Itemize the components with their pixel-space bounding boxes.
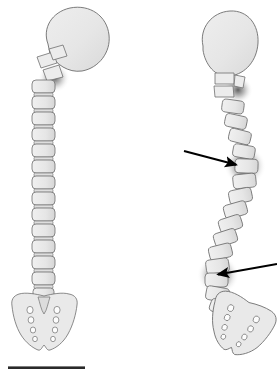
vertebra-body [205, 257, 230, 274]
sacral-foramen [54, 306, 60, 313]
sacral-foramen [30, 327, 35, 333]
vertebra-body [205, 273, 228, 287]
sacral-foramen [33, 336, 38, 341]
vertebra-body [32, 96, 55, 109]
spine-comparison-illustration [0, 0, 277, 377]
vertebra-body [32, 224, 55, 237]
figure-container [0, 0, 277, 377]
sacral-foramen [51, 336, 56, 341]
vertebra-body [32, 192, 55, 205]
vertebra-body [32, 80, 55, 93]
vertebra-body [224, 113, 248, 130]
left-vertebral-column [32, 80, 55, 298]
left-specimen-normal-spine [12, 7, 109, 350]
sacral-foramen [52, 327, 57, 333]
vertebra-body [32, 112, 55, 125]
right-cranium [202, 11, 258, 76]
vertebra-body [32, 176, 55, 189]
right-specimen-scoliotic-spine [197, 11, 277, 365]
scale-bar-group [8, 366, 85, 369]
vertebra-body [235, 159, 258, 174]
vertebra-body [32, 160, 55, 173]
vertebra-body [32, 240, 55, 253]
vertebra-body [32, 272, 55, 285]
left-sacrum [12, 293, 77, 350]
vertebra-body [32, 144, 55, 157]
vertebra-body [232, 173, 256, 189]
vertebra-body [228, 128, 252, 146]
vertebra-body [221, 99, 245, 115]
sacral-foramen [28, 317, 34, 324]
vertebra-body [32, 256, 55, 269]
sacral-foramen [27, 306, 33, 313]
sacral-foramen [53, 317, 59, 324]
vertebra-body [32, 128, 55, 141]
scale-bar [8, 366, 85, 369]
vertebra-body [32, 208, 55, 221]
